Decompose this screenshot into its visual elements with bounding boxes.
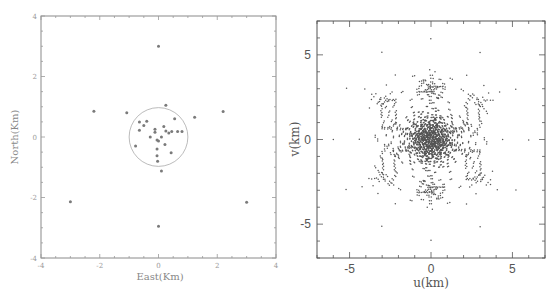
uv-point [418, 190, 420, 192]
uv-point [443, 119, 445, 121]
uv-point [420, 120, 422, 122]
uv-point [466, 113, 468, 115]
uv-point [468, 152, 470, 154]
antenna-point [222, 110, 225, 113]
uv-point [380, 113, 382, 115]
uv-point [423, 144, 425, 146]
uv-point [428, 145, 430, 147]
uv-point [388, 112, 390, 114]
uv-point [405, 129, 407, 131]
uv-point [386, 146, 388, 148]
uv-point [381, 151, 383, 153]
uv-point [388, 115, 390, 117]
uv-point [443, 133, 445, 135]
uv-point [432, 83, 434, 85]
uv-point [395, 156, 397, 158]
uv-point [485, 100, 487, 102]
uv-point [438, 195, 440, 197]
uv-point [447, 101, 449, 103]
uv-point [411, 200, 413, 202]
uv-point [438, 186, 440, 188]
uv-point [416, 191, 418, 193]
uv-point [420, 122, 422, 124]
uv-point [446, 147, 448, 149]
uv-point [381, 126, 383, 128]
right-ticks [317, 21, 545, 258]
uv-point [418, 112, 420, 114]
uv-point [482, 97, 484, 99]
uv-point [430, 132, 432, 134]
uv-point [396, 128, 398, 130]
uv-point [333, 139, 335, 141]
uv-point [381, 112, 383, 114]
uv-point [424, 168, 426, 170]
uv-point [428, 96, 430, 98]
uv-point [375, 93, 377, 95]
uv-point [471, 125, 473, 127]
uv-point [419, 81, 421, 83]
uv-point [384, 178, 386, 180]
uv-point [391, 91, 393, 93]
uv-point [416, 189, 418, 191]
uv-point [474, 176, 476, 178]
uv-point [435, 122, 437, 124]
uv-point [419, 181, 421, 183]
uv-point [472, 150, 474, 152]
uv-point [488, 92, 490, 94]
uv-point [438, 79, 440, 81]
uv-point [448, 156, 450, 158]
uv-point [430, 78, 432, 80]
uv-point [447, 133, 449, 135]
uv-point [374, 165, 376, 167]
uv-point [440, 164, 442, 166]
uv-point [456, 130, 458, 132]
uv-point [480, 121, 482, 123]
uv-point [440, 86, 442, 88]
uv-coverage-plot: -50550-5 u(km) v(km) [288, 21, 545, 290]
uv-point [480, 161, 482, 163]
uv-point [381, 172, 383, 174]
uv-point [430, 147, 432, 149]
uv-point [479, 172, 481, 174]
uv-point [465, 102, 467, 104]
uv-point [431, 142, 433, 144]
uv-point [419, 85, 421, 87]
uv-point [434, 71, 436, 73]
uv-point [435, 93, 437, 95]
uv-point [490, 184, 492, 186]
uv-point [442, 83, 444, 85]
uv-point [434, 162, 436, 164]
uv-point [428, 185, 430, 187]
uv-point [492, 170, 494, 172]
uv-point [364, 88, 366, 90]
uv-point [400, 142, 402, 144]
uv-point [393, 184, 395, 186]
uv-point [383, 120, 385, 122]
uv-point [430, 81, 432, 83]
uv-point [479, 126, 481, 128]
uv-point [474, 149, 476, 151]
uv-point [377, 170, 379, 172]
uv-point [426, 167, 428, 169]
uv-point [432, 154, 434, 156]
uv-point [412, 175, 414, 177]
uv-point [467, 115, 469, 117]
uv-point [497, 189, 499, 191]
uv-point [429, 69, 431, 71]
uv-point [455, 149, 457, 151]
uv-point [461, 137, 463, 139]
uv-point [455, 161, 457, 163]
uv-point [475, 104, 477, 106]
figure: -4-2024420-2-4 East(Km) North(Km) -50550… [0, 0, 557, 296]
uv-point [431, 130, 433, 132]
uv-point [479, 52, 481, 54]
uv-point [431, 192, 433, 194]
uv-point [423, 82, 425, 84]
uv-point [387, 101, 389, 103]
uv-point [380, 157, 382, 159]
uv-point [429, 187, 431, 189]
antenna-point [153, 131, 156, 134]
uv-point [421, 163, 423, 165]
uv-point [421, 83, 423, 85]
uv-point [414, 148, 416, 150]
